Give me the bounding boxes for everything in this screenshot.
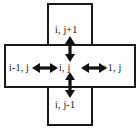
node-label-top: i, j+1 (55, 24, 77, 35)
double-arrow-up-icon (63, 36, 77, 62)
double-arrow-down-icon (63, 72, 77, 98)
node-label-left: i-1, j (9, 62, 29, 73)
node-label-bottom: i, j-1 (55, 99, 75, 110)
stencil-diagram: i, j+1 i-1, j i, j i+1, j i, j-1 (0, 0, 140, 132)
double-arrow-left-icon (32, 61, 58, 75)
double-arrow-right-icon (81, 61, 107, 75)
